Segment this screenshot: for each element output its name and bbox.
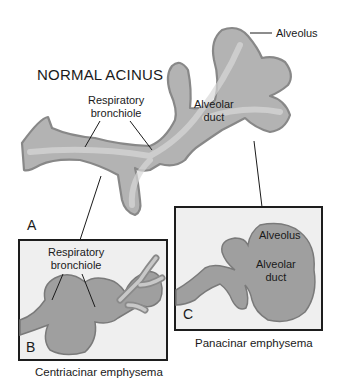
label-alveolus-a: Alveolus [276, 27, 318, 40]
panel-letter-a: A [27, 217, 36, 233]
label-line: Respiratory [48, 246, 104, 259]
label-alveolar-duct-c: Alveolar duct [256, 258, 296, 284]
label-line: duct [256, 271, 296, 284]
caption-centriacinar: Centriacinar emphysema [35, 366, 163, 378]
label-line: bronchiole [48, 259, 104, 272]
label-line: Alveolar [194, 98, 234, 111]
label-resp-bronchiole-a: Respiratory bronchiole [88, 94, 144, 120]
panel-letter-b: B [26, 339, 35, 355]
label-alveolar-duct-a: Alveolar duct [194, 98, 234, 124]
caption-panacinar: Panacinar emphysema [195, 337, 313, 349]
label-line: duct [194, 111, 234, 124]
label-line: bronchiole [88, 107, 144, 120]
label-alveolus-c: Alveolus [259, 229, 301, 242]
label-line: Respiratory [88, 94, 144, 107]
normal-acinus-illustration [0, 0, 340, 388]
acinus-airway [22, 28, 291, 215]
figure-title: NORMAL ACINUS [37, 66, 163, 83]
label-resp-bronchiole-b: Respiratory bronchiole [48, 246, 104, 272]
label-line: Alveolar [256, 258, 296, 271]
panel-letter-c: C [183, 306, 193, 322]
